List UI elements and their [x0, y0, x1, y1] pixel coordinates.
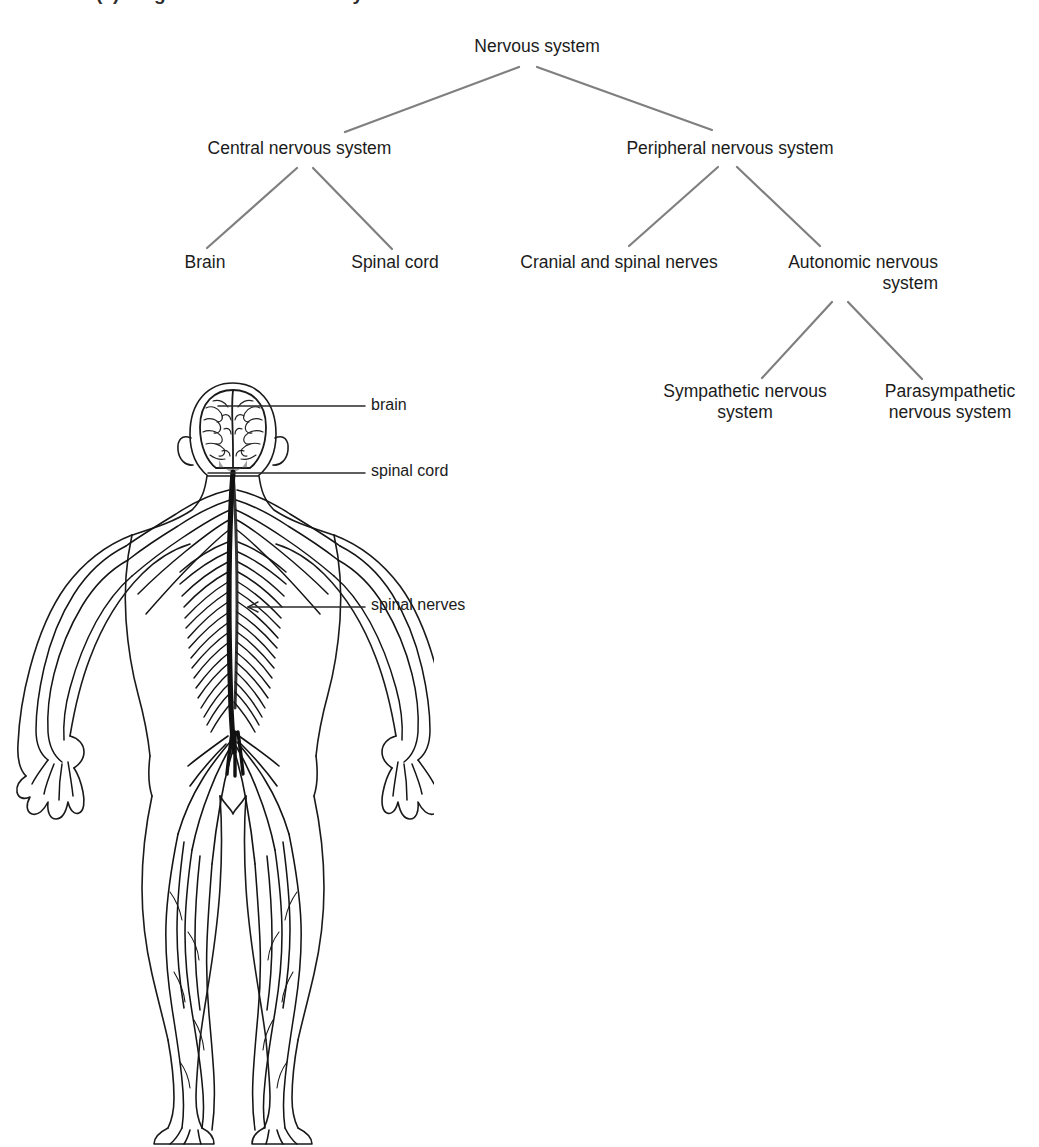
nervous-system-body-illustration	[14, 372, 434, 1147]
brain-illustration	[200, 390, 266, 472]
tree-node-nervous-system: Nervous system	[452, 36, 622, 57]
callout-label-spinal-cord: spinal cord	[371, 462, 448, 480]
tree-node-spinal-cord: Spinal cord	[320, 252, 470, 273]
tree-node-cranial-and-spinal-nerves: Cranial and spinal nerves	[495, 252, 743, 273]
tree-node-central-nervous-system: Central nervous system	[182, 138, 417, 159]
edge-ans-sympathetic	[762, 302, 832, 378]
leg-nerves	[166, 834, 301, 1144]
edge-cns-spinalcord	[313, 168, 392, 249]
edge-root-pns	[537, 67, 712, 130]
tree-node-peripheral-nervous-system: Peripheral nervous system	[605, 138, 855, 159]
arm-nerves	[32, 546, 434, 800]
body-diagram-svg	[14, 372, 434, 1147]
edge-pns-autonomic	[737, 167, 820, 246]
tree-node-autonomic-nervous-system: Autonomic nervous system	[748, 252, 938, 294]
edge-ans-parasympathetic	[848, 302, 922, 379]
tree-node-parasympathetic-nervous-system: Parasympathetic nervous system	[860, 381, 1039, 423]
tree-node-sympathetic-nervous-system: Sympathetic nervous system	[640, 381, 850, 423]
callout-label-spinal-nerves: spinal nerves	[371, 596, 465, 614]
edge-pns-cranial	[629, 167, 718, 246]
tree-node-brain: Brain	[150, 252, 260, 273]
callout-label-brain: brain	[371, 396, 407, 414]
body-outline	[17, 383, 434, 1144]
edge-root-cns	[345, 67, 519, 132]
edge-cns-brain	[207, 168, 297, 248]
